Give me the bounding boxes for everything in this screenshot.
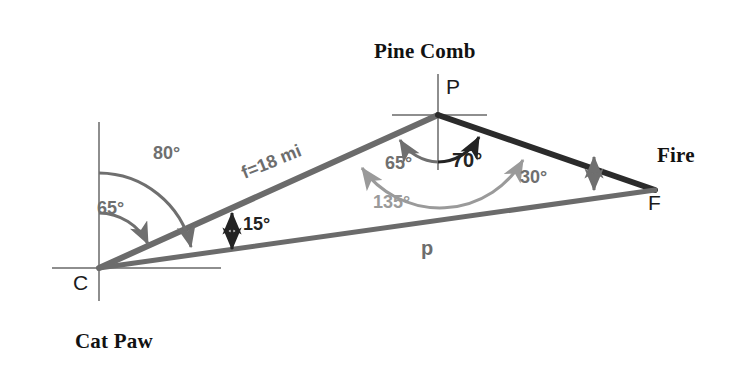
triangle-diagram-svg	[0, 0, 738, 376]
diagram-canvas: Pine Comb Fire Cat Paw P F C f=18 mi p 8…	[0, 0, 738, 376]
angle-label-70: 70°	[452, 150, 482, 170]
angle-label-135: 135°	[373, 193, 410, 211]
vertex-label-c: C	[73, 272, 88, 293]
vertex-label-f: F	[648, 192, 661, 213]
place-label-cat-paw: Cat Paw	[75, 331, 153, 352]
side-label-p: p	[421, 238, 433, 258]
angle-label-80: 80°	[153, 144, 180, 162]
place-label-fire: Fire	[657, 145, 695, 166]
angle-label-65-at-p: 65°	[385, 154, 412, 172]
place-label-pine-comb: Pine Comb	[374, 41, 476, 62]
angle-label-15: 15°	[243, 215, 270, 233]
vertex-label-p: P	[446, 76, 460, 97]
angle-label-65-at-c: 65°	[97, 199, 124, 217]
angle-label-30: 30°	[520, 168, 547, 186]
